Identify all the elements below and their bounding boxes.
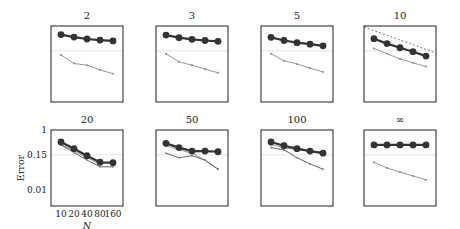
data-point-small (204, 68, 206, 70)
data-point (307, 148, 314, 155)
data-point-small (373, 47, 375, 49)
data-point-small (99, 69, 101, 71)
x-tick-label: 20 (68, 209, 80, 219)
data-point-small (86, 64, 88, 66)
data-point-small (386, 53, 388, 55)
data-point-small (86, 159, 88, 161)
panel-title: 100 (287, 114, 306, 125)
data-point (281, 37, 288, 44)
panel-∞: ∞ (364, 114, 436, 206)
y-tick-label: 0.15 (27, 150, 47, 160)
data-point (281, 142, 288, 149)
data-point (307, 41, 314, 48)
x-tick-label: 10 (55, 209, 67, 219)
data-point (176, 144, 183, 151)
data-point-small (425, 66, 427, 68)
x-tick-label: 40 (81, 209, 93, 219)
data-point-small (386, 167, 388, 169)
data-point (320, 42, 327, 49)
data-point (410, 142, 417, 149)
panel-2: 2 (51, 10, 123, 102)
data-point-small (191, 155, 193, 157)
panel-frame (364, 130, 436, 206)
data-point (58, 139, 65, 146)
y-axis-label: Error (15, 154, 26, 181)
panel-50: 50 (156, 114, 228, 206)
data-point (110, 38, 117, 45)
data-point (371, 142, 378, 149)
data-point-small (399, 58, 401, 60)
data-point (397, 142, 404, 149)
data-point (189, 148, 196, 155)
data-point-small (322, 168, 324, 170)
data-point (97, 37, 104, 44)
data-point (371, 35, 378, 42)
data-point (294, 145, 301, 152)
data-point (110, 159, 117, 166)
series-secondary (271, 54, 323, 72)
data-point-small (191, 64, 193, 66)
data-point-small (373, 161, 375, 163)
panel-title: 10 (394, 10, 407, 21)
figure: 235102010.150.0110204080160NError50100∞ (0, 0, 460, 229)
panel-title: 2 (84, 10, 90, 21)
data-point (84, 36, 91, 43)
data-point (320, 150, 327, 157)
data-point (215, 148, 222, 155)
panel-title: 5 (294, 10, 300, 21)
data-point-small (217, 168, 219, 170)
data-point (163, 32, 170, 39)
data-point (294, 39, 301, 46)
data-point (58, 31, 65, 38)
data-point-small (165, 152, 167, 154)
data-point-small (309, 67, 311, 69)
data-point-small (73, 62, 75, 64)
panel-title: 50 (186, 114, 199, 125)
data-point-small (399, 171, 401, 173)
data-point-small (99, 166, 101, 168)
data-point-small (112, 73, 114, 75)
data-point (202, 148, 209, 155)
data-point-small (322, 71, 324, 73)
data-point (423, 142, 430, 149)
data-point-small (60, 54, 62, 56)
data-point-small (204, 159, 206, 161)
y-tick-label: 1 (41, 125, 47, 135)
data-point (71, 34, 78, 41)
data-point (215, 38, 222, 45)
data-point-small (178, 61, 180, 63)
panel-title: ∞ (396, 114, 404, 125)
data-point (163, 140, 170, 147)
data-point-small (309, 163, 311, 165)
data-point (268, 34, 275, 41)
panel-20: 20 (51, 114, 123, 206)
data-point (189, 36, 196, 43)
data-point (97, 159, 104, 166)
data-point-small (412, 62, 414, 64)
panel-title: 3 (189, 10, 195, 21)
data-point (384, 142, 391, 149)
series-secondary (166, 54, 218, 73)
data-point (268, 139, 275, 146)
panel-3: 3 (156, 10, 228, 102)
data-point (397, 44, 404, 51)
panel-10: 10 (364, 10, 436, 102)
data-point-small (296, 63, 298, 65)
data-point (423, 53, 430, 60)
data-point (71, 145, 78, 152)
data-point-small (412, 175, 414, 177)
x-axis-label: N (82, 220, 92, 229)
data-point-small (217, 72, 219, 74)
data-point-small (165, 53, 167, 55)
panel-5: 5 (261, 10, 333, 102)
data-point-small (296, 157, 298, 159)
panel-title: 20 (81, 114, 94, 125)
data-point (384, 40, 391, 47)
data-point-small (283, 60, 285, 62)
series-secondary (374, 162, 426, 180)
data-point (84, 152, 91, 159)
data-point-small (178, 157, 180, 159)
data-point-small (270, 53, 272, 55)
data-point-small (425, 179, 427, 181)
x-tick-label: 160 (104, 209, 121, 219)
